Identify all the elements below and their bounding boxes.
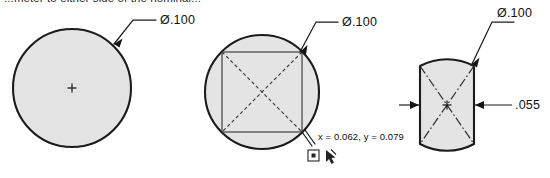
right-diameter-leader xyxy=(472,22,514,64)
right-diameter-label: Ø.100 xyxy=(497,6,532,20)
sketch-point-icon xyxy=(308,150,319,161)
pointer-cursor-icon xyxy=(326,150,336,165)
right-width-arrow-left xyxy=(410,101,419,109)
right-width-arrow-right xyxy=(475,101,484,109)
right-width-label: .055 xyxy=(515,98,540,112)
drawing-canvas: Ø.100 Ø.100 x = 0.062, y = 0.079 xyxy=(0,0,550,178)
figure-middle-group: Ø.100 x = 0.062, y = 0.079 xyxy=(205,15,404,164)
left-diameter-label: Ø.100 xyxy=(160,13,195,27)
middle-coordinate-leader-2 xyxy=(305,130,315,144)
figure-left-group: Ø.100 xyxy=(13,13,195,147)
technical-drawing-sheet: ...meter to either side of the nominal..… xyxy=(0,0,550,178)
middle-coordinate-label: x = 0.062, y = 0.079 xyxy=(318,131,404,142)
middle-coordinate-leader xyxy=(302,132,312,146)
figure-right-group: Ø.100 .055 xyxy=(399,6,540,151)
middle-diameter-label: Ø.100 xyxy=(342,15,377,29)
